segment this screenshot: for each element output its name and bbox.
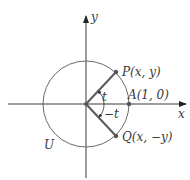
circle-u-label: U: [44, 138, 55, 152]
point-a-label: A(1, 0): [127, 88, 169, 102]
x-axis-label: x: [178, 107, 185, 121]
point-q-label: Q(x, −y): [122, 130, 173, 144]
point-p-label: P(x, y): [121, 65, 161, 79]
point-a: [127, 102, 131, 106]
angle-neg-t-label: −t: [104, 107, 119, 121]
radius-op: [86, 72, 116, 104]
unit-circle-diagram: y x P(x, y) A(1, 0) Q(x, −y) t −t U: [0, 0, 190, 180]
point-p: [114, 70, 118, 74]
angle-t-label: t: [102, 90, 107, 104]
origin-point: [84, 102, 88, 106]
point-q: [114, 134, 118, 138]
y-axis-label: y: [90, 10, 98, 24]
